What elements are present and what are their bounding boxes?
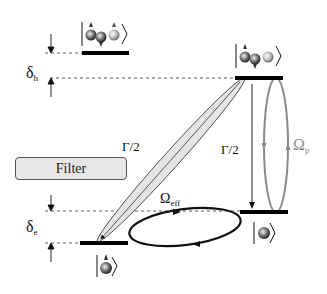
level-bar-top-left [82, 51, 129, 55]
vertical-decay-arrow [249, 84, 255, 209]
energy-level-diagram: δh δe Γ/2 Γ/2 Ωeff Ωp Filter [0, 0, 327, 294]
omega-symbol: Ω [160, 191, 170, 206]
omega-eff-label: Ωeff [160, 192, 180, 208]
dashed-reference-lines [45, 53, 242, 243]
level-bar-bottom-right [240, 210, 288, 214]
gamma-left-label: Γ/2 [122, 140, 140, 153]
omega-symbol: Ω [293, 136, 305, 153]
effective-coupling-loop [127, 202, 243, 251]
delta-e-subscript: e [34, 227, 38, 237]
pump-rabi-loop [262, 78, 291, 212]
filter-box: Filter [15, 157, 127, 180]
delta-e-arrows [48, 195, 54, 262]
omega-p-subscript: p [305, 145, 310, 155]
omega-p-label: Ωp [293, 137, 309, 155]
gamma-right-label: Γ/2 [221, 143, 239, 156]
omega-eff-subscript: eff [170, 198, 180, 208]
ket-top-left [82, 22, 127, 47]
delta-symbol: δ [26, 218, 34, 235]
delta-e-label: δe [26, 219, 38, 237]
filter-label: Filter [56, 161, 86, 177]
level-bar-top-right [235, 76, 283, 80]
ket-top-right [236, 44, 281, 69]
delta-h-label: δh [26, 65, 38, 83]
delta-symbol: δ [26, 64, 34, 81]
delta-h-arrows [48, 34, 54, 97]
delta-h-subscript: h [34, 73, 39, 83]
ket-bottom-left [97, 254, 117, 277]
diagram-canvas [0, 0, 327, 294]
level-bar-bottom-left [80, 241, 128, 245]
ket-bottom-right [254, 222, 275, 244]
